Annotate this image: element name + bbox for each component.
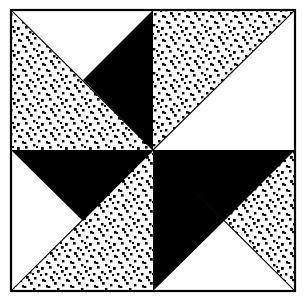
quilt-block-canvas [0,0,308,304]
quilt-block-illustration [0,0,308,304]
block-interior [11,10,295,291]
